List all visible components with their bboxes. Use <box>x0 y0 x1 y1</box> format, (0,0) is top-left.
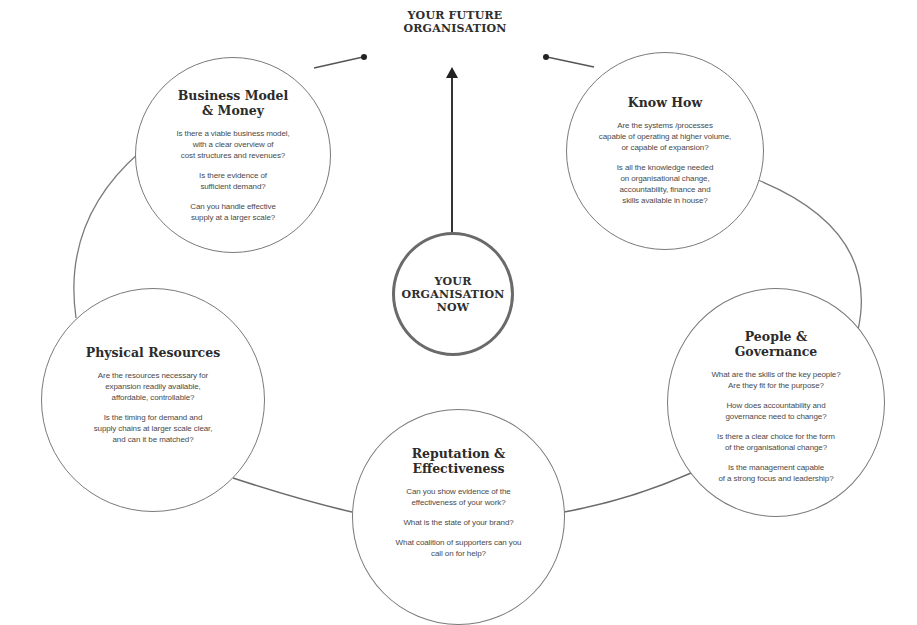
node-title: Know How <box>628 95 702 110</box>
node-question: Is there a clear choice for the form of … <box>717 431 835 453</box>
node-question: Is all the knowledge needed on organisat… <box>617 162 713 206</box>
center-organisation-now: YOUR ORGANISATION NOW <box>392 232 514 356</box>
node-know-how: Know How Are the systems /processes capa… <box>566 52 764 250</box>
connector-business-to-dot <box>314 57 363 68</box>
future-organisation-label: YOUR FUTURE ORGANISATION <box>370 9 540 35</box>
connector-knowhow-to-dot <box>547 57 594 67</box>
node-question: Is the timing for demand and supply chai… <box>94 412 213 445</box>
node-question: What coalition of supporters can you cal… <box>396 537 522 559</box>
node-physical-resources: Physical Resources Are the resources nec… <box>41 288 265 512</box>
node-business-model: Business Model & Money Is there a viable… <box>135 57 331 253</box>
node-question: Can you show evidence of the effectivene… <box>406 486 510 508</box>
node-question: Are the systems /processes capable of op… <box>599 120 731 153</box>
node-title: Business Model & Money <box>178 88 289 118</box>
node-question: Is there a viable business model, with a… <box>176 128 289 161</box>
connector-reputation-to-people <box>564 473 691 512</box>
node-question: Are the resources necessary for expansio… <box>98 370 208 403</box>
node-question: What is the state of your brand? <box>403 517 513 528</box>
node-title: Physical Resources <box>86 345 220 360</box>
node-title: Reputation & Effectiveness <box>412 446 506 476</box>
connector-dot-right <box>543 54 549 60</box>
connector-physical-to-reputation <box>233 478 352 512</box>
node-question: Is there evidence of sufficient demand? <box>199 170 267 192</box>
node-question: Is the management capable of a strong fo… <box>718 462 833 484</box>
center-label: YOUR ORGANISATION NOW <box>401 275 504 314</box>
node-title: People & Governance <box>735 329 818 359</box>
node-reputation-effectiveness: Reputation & Effectiveness Can you show … <box>352 409 565 625</box>
node-question: What are the skills of the key people? A… <box>711 369 840 391</box>
arrow-head <box>446 67 458 78</box>
connector-dot-left <box>361 54 367 60</box>
node-people-governance: People & Governance What are the skills … <box>667 288 885 517</box>
node-question: How does accountability and governance n… <box>725 400 826 422</box>
node-question: Can you handle effective supply at a lar… <box>190 201 276 223</box>
